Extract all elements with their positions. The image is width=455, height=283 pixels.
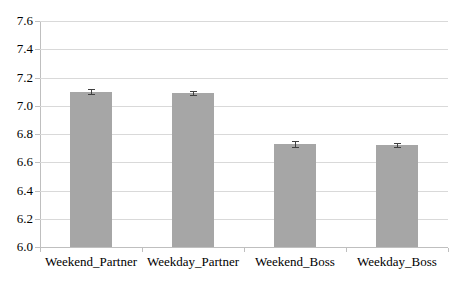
x-axis-category-label: Weekday_Partner (142, 254, 244, 270)
bar-chart: 6.06.26.46.66.87.07.27.47.6 Weekend_Part… (0, 0, 455, 283)
x-axis-category-label: Weekend_Boss (244, 254, 346, 270)
x-tick-mark (346, 248, 347, 252)
x-tick-mark (448, 248, 449, 252)
x-axis-category-label: Weekend_Partner (40, 254, 142, 270)
x-axis: Weekend_PartnerWeekday_PartnerWeekend_Bo… (0, 0, 455, 283)
x-axis-category-label: Weekday_Boss (346, 254, 448, 270)
x-tick-mark (40, 248, 41, 252)
x-tick-mark (142, 248, 143, 252)
x-tick-mark (244, 248, 245, 252)
